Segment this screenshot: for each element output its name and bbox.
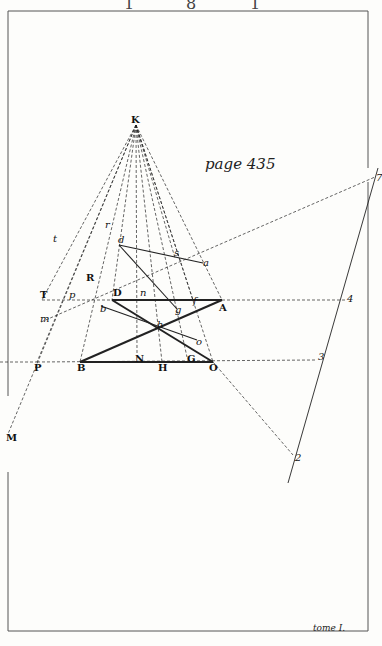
point-label-p: p <box>69 289 76 300</box>
page-reference-caption: page 435 <box>205 155 275 173</box>
geometric-figure: KdsatrRTpDnfA4mbghoNGPBHO327M <box>0 0 382 646</box>
point-label-m: m <box>40 313 49 324</box>
construction-line-K-D <box>112 125 136 300</box>
point-label-4: 4 <box>346 293 353 304</box>
point-label-P: P <box>34 362 42 373</box>
point-label-R: R <box>86 272 95 283</box>
point-label-n: n <box>140 287 146 298</box>
point-label-d: d <box>118 234 124 245</box>
point-label-K: K <box>131 114 140 125</box>
point-label-h: h <box>157 319 163 330</box>
construction-line-K-B <box>80 125 136 362</box>
point-label-t: t <box>53 233 58 244</box>
point-label-g: g <box>175 304 181 315</box>
point-label-T: T <box>40 289 48 300</box>
point-label-M: M <box>6 432 17 443</box>
edge-d-a <box>119 245 203 263</box>
point-label-3: 3 <box>318 351 324 362</box>
point-label-N: N <box>135 353 144 364</box>
point-label-O: O <box>209 362 218 373</box>
edge-b-o <box>101 306 197 340</box>
point-label-7: 7 <box>376 172 382 183</box>
point-label-D: D <box>113 287 122 298</box>
point-label-A: A <box>218 302 227 313</box>
edge-D-O <box>112 300 213 362</box>
point-label-o: o <box>196 336 202 347</box>
point-label-H: H <box>158 362 167 373</box>
construction-line-K-s <box>136 125 175 258</box>
point-label-G: G <box>187 353 196 364</box>
point-label-r: r <box>105 219 111 230</box>
volume-caption: tome I. <box>313 623 345 633</box>
point-label-B: B <box>77 362 85 373</box>
point-label-b: b <box>100 303 106 314</box>
construction-line-O-2 <box>213 362 293 455</box>
construction-line-K-A <box>136 125 222 300</box>
engraved-plate: 1 8 1 KdsatrRTpDnfA4mbghoNGPBHO327M page… <box>0 0 382 646</box>
point-label-2: 2 <box>294 452 301 463</box>
point-label-a: a <box>203 257 209 268</box>
picture-plane-line <box>288 168 378 483</box>
point-label-s: s <box>174 247 179 258</box>
